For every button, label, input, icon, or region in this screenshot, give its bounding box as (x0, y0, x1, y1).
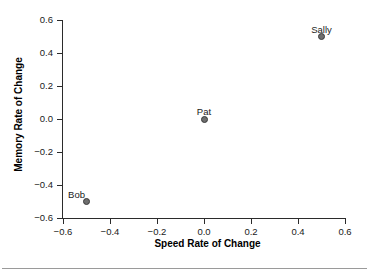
bottom-divider (2, 268, 367, 269)
x-tick-label: 0.2 (231, 226, 271, 237)
y-tick-mark (57, 20, 62, 21)
y-tick-label: −0.6 (17, 212, 53, 223)
y-axis-title: Memory Rate of Change (13, 35, 24, 195)
y-tick-mark (57, 119, 62, 120)
x-tick-label: 0.0 (184, 226, 224, 237)
x-tick-label: −0.4 (90, 226, 130, 237)
y-tick-label: 0.6 (17, 14, 53, 25)
x-tick-label: 0.6 (325, 226, 365, 237)
data-point-label: Pat (174, 106, 234, 117)
y-tick-mark (57, 218, 62, 219)
x-tick-mark (63, 219, 64, 224)
scatter-plot-figure: −0.6−0.4−0.20.00.20.40.6 −0.6−0.4−0.20.0… (0, 0, 369, 276)
data-point-label: Sally (292, 24, 352, 35)
y-tick-mark (57, 53, 62, 54)
x-axis-title: Speed Rate of Change (0, 238, 369, 249)
x-tick-mark (204, 219, 205, 224)
y-tick-mark (57, 152, 62, 153)
x-tick-mark (110, 219, 111, 224)
x-tick-mark (251, 219, 252, 224)
data-point-label: Bob (47, 189, 107, 200)
x-tick-mark (298, 219, 299, 224)
x-tick-mark (157, 219, 158, 224)
x-tick-label: −0.6 (43, 226, 83, 237)
y-tick-mark (57, 185, 62, 186)
x-tick-mark (345, 219, 346, 224)
x-tick-label: −0.2 (137, 226, 177, 237)
y-tick-mark (57, 86, 62, 87)
x-tick-label: 0.4 (278, 226, 318, 237)
